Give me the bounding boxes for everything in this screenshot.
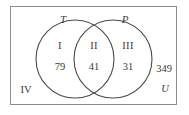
region-count-ii: 41 [85, 62, 103, 73]
circle-set-p [74, 20, 152, 98]
venn-diagram-figure: T P I II III 79 41 31 349 IV U [0, 0, 189, 115]
region-numeral-i: I [53, 41, 67, 52]
venn-circles-layer [0, 0, 189, 115]
region-count-i: 79 [50, 62, 70, 73]
region-numeral-iv: IV [18, 85, 34, 96]
universe-label: U [159, 84, 171, 95]
set-label-t: T [56, 14, 70, 25]
region-count-iv: 349 [152, 64, 176, 75]
region-numeral-ii: II [86, 41, 102, 52]
set-label-p: P [118, 14, 132, 25]
region-count-iii: 31 [119, 62, 137, 73]
circle-set-t [36, 20, 114, 98]
region-numeral-iii: III [118, 41, 138, 52]
